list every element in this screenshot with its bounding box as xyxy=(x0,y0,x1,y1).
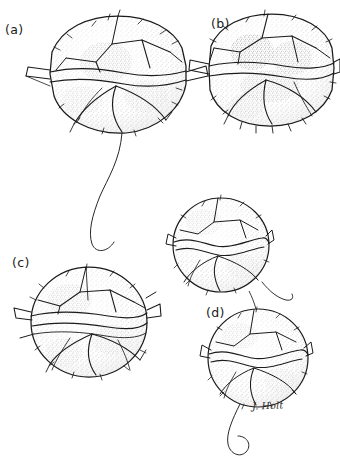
artist-signature: J. Holt xyxy=(252,399,284,411)
panel-label-a: (a) xyxy=(5,22,24,37)
figure-plate: (a) (b) (c) (d) J. Holt xyxy=(0,0,340,467)
cropped-caption-sliver xyxy=(88,0,258,6)
panel-label-b: (b) xyxy=(211,16,230,31)
figure-illustration xyxy=(0,0,340,467)
panel-label-d: (d) xyxy=(206,305,225,320)
panel-label-c: (c) xyxy=(12,255,30,270)
